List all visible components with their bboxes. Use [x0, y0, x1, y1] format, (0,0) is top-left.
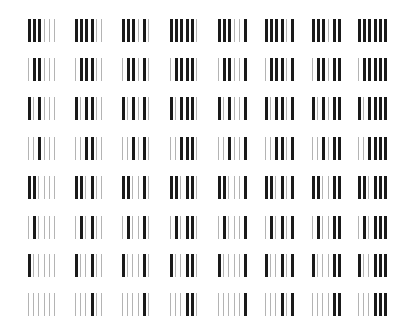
thin-bar: [96, 216, 97, 239]
thin-bar: [127, 254, 128, 277]
thin-bar: [132, 176, 133, 199]
thin-bar: [49, 176, 50, 199]
thin-bar: [228, 176, 229, 199]
thick-bar: [379, 216, 382, 239]
thick-bar: [379, 58, 382, 81]
thick-bar: [363, 216, 366, 239]
bar-pattern-cell: [358, 19, 390, 42]
thick-bar: [180, 19, 183, 42]
thin-bar: [28, 58, 29, 81]
thin-bar: [223, 97, 224, 120]
thin-bar: [175, 254, 176, 277]
thick-bar: [80, 216, 83, 239]
bar-pattern-cell: [75, 97, 107, 120]
thin-bar: [101, 19, 102, 42]
thin-bar: [358, 58, 359, 81]
thick-bar: [170, 254, 173, 277]
thin-bar: [49, 137, 50, 160]
thin-bar: [218, 293, 219, 316]
thick-bar: [291, 58, 294, 81]
thin-bar: [368, 293, 369, 316]
thick-bar: [91, 19, 94, 42]
thin-bar: [75, 293, 76, 316]
thin-bar: [44, 19, 45, 42]
thick-bar: [374, 254, 377, 277]
thin-bar: [286, 216, 287, 239]
thick-bar: [33, 176, 36, 199]
thin-bar: [312, 58, 313, 81]
thin-bar: [85, 176, 86, 199]
thin-bar: [275, 176, 276, 199]
thin-bar: [234, 293, 235, 316]
bar-pattern-cell: [218, 254, 250, 277]
thick-bar: [368, 58, 371, 81]
thick-bar: [218, 97, 221, 120]
bar-pattern-cell: [265, 293, 297, 316]
thin-bar: [54, 58, 55, 81]
bar-pattern-cell: [358, 97, 390, 120]
thin-bar: [239, 137, 240, 160]
thin-bar: [127, 293, 128, 316]
thin-bar: [170, 216, 171, 239]
thick-bar: [333, 293, 336, 316]
bar-pattern-cell: [265, 19, 297, 42]
thin-bar: [286, 58, 287, 81]
thick-bar: [317, 58, 320, 81]
thick-bar: [191, 97, 194, 120]
thick-bar: [338, 19, 341, 42]
thick-bar: [374, 97, 377, 120]
thin-bar: [363, 97, 364, 120]
thick-bar: [281, 19, 284, 42]
thick-bar: [333, 254, 336, 277]
thin-bar: [175, 137, 176, 160]
thick-bar: [170, 176, 173, 199]
thin-bar: [101, 293, 102, 316]
thick-bar: [180, 97, 183, 120]
thin-bar: [170, 293, 171, 316]
thin-bar: [196, 137, 197, 160]
bar-pattern-cell: [122, 19, 154, 42]
thick-bar: [291, 97, 294, 120]
bar-pattern-cell: [312, 19, 344, 42]
bar-pattern-cell: [122, 176, 154, 199]
bar-pattern-cell: [358, 176, 390, 199]
thin-bar: [138, 97, 139, 120]
bar-pattern-cell: [218, 176, 250, 199]
thick-bar: [28, 254, 31, 277]
thick-bar: [218, 254, 221, 277]
thin-bar: [328, 19, 329, 42]
thick-bar: [191, 216, 194, 239]
thick-bar: [170, 97, 173, 120]
thin-bar: [101, 254, 102, 277]
thick-bar: [85, 97, 88, 120]
thin-bar: [80, 254, 81, 277]
thin-bar: [49, 58, 50, 81]
thick-bar: [75, 19, 78, 42]
thick-bar: [191, 293, 194, 316]
thin-bar: [218, 58, 219, 81]
thick-bar: [244, 176, 247, 199]
thin-bar: [101, 216, 102, 239]
thin-bar: [170, 137, 171, 160]
thick-bar: [338, 216, 341, 239]
bar-pattern-cell: [170, 137, 202, 160]
thin-bar: [180, 293, 181, 316]
thick-bar: [291, 216, 294, 239]
thick-bar: [75, 176, 78, 199]
thin-bar: [228, 216, 229, 239]
thick-bar: [333, 137, 336, 160]
bar-pattern-cell: [28, 216, 60, 239]
thin-bar: [234, 254, 235, 277]
thick-bar: [281, 216, 284, 239]
thin-bar: [96, 176, 97, 199]
thin-bar: [127, 137, 128, 160]
thin-bar: [223, 137, 224, 160]
thick-bar: [91, 293, 94, 316]
thick-bar: [28, 176, 31, 199]
thick-bar: [312, 254, 315, 277]
bar-pattern-cell: [75, 293, 107, 316]
thick-bar: [75, 254, 78, 277]
thick-bar: [127, 216, 130, 239]
thin-bar: [138, 58, 139, 81]
thin-bar: [85, 293, 86, 316]
